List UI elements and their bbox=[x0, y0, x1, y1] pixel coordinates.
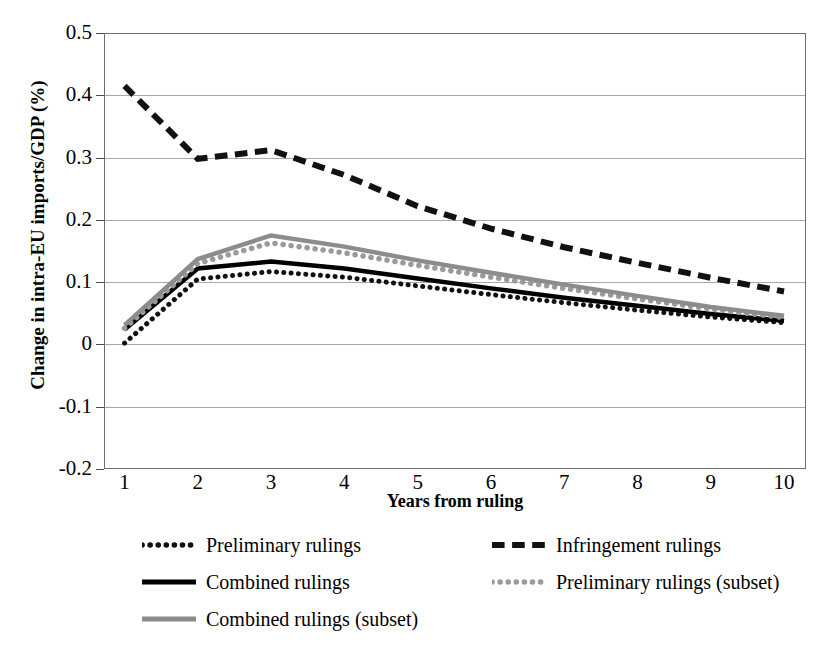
y-axis-tick-label: 0.1 bbox=[20, 271, 92, 292]
legend-key-icon bbox=[492, 537, 546, 553]
y-axis-tick-mark bbox=[96, 407, 104, 408]
chart-legend: Preliminary rulingsInfringement rulingsC… bbox=[128, 528, 828, 640]
y-axis-tick-mark bbox=[96, 158, 104, 159]
y-axis-tick-mark bbox=[96, 344, 104, 345]
legend-key-icon bbox=[142, 537, 196, 553]
legend-item[interactable]: Preliminary rulings (subset) bbox=[492, 565, 832, 599]
y-axis-tick-label: -0.1 bbox=[20, 396, 92, 417]
y-axis-tick-mark bbox=[96, 220, 104, 221]
y-axis-tick-mark bbox=[96, 469, 104, 470]
y-axis-tick-label: 0.5 bbox=[20, 22, 92, 43]
y-axis-tick-mark bbox=[96, 95, 104, 96]
legend-label: Combined rulings (subset) bbox=[206, 608, 418, 630]
legend-label: Preliminary rulings bbox=[206, 534, 361, 556]
y-axis-tick-label: 0.3 bbox=[20, 147, 92, 168]
y-axis-tick-label: 0.2 bbox=[20, 209, 92, 230]
legend-item[interactable]: Infringement rulings bbox=[492, 528, 832, 562]
y-axis-tick-label: 0 bbox=[20, 333, 92, 354]
chart-figure: Change in intra-EU imports/GDP (%) 0.50.… bbox=[0, 0, 836, 650]
legend-key-icon bbox=[492, 574, 546, 590]
x-axis-title: Years from ruling bbox=[100, 489, 810, 513]
legend-item[interactable]: Preliminary rulings bbox=[142, 528, 472, 562]
legend-label: Infringement rulings bbox=[556, 534, 721, 556]
legend-label: Combined rulings bbox=[206, 571, 350, 593]
y-axis-tick-mark bbox=[96, 282, 104, 283]
legend-item[interactable]: Combined rulings bbox=[142, 565, 472, 599]
legend-key-icon bbox=[142, 611, 196, 627]
y-axis-tick-mark bbox=[96, 33, 104, 34]
y-axis-tick-label: 0.4 bbox=[20, 84, 92, 105]
plot-border bbox=[104, 33, 806, 469]
y-axis-tick-label: -0.2 bbox=[20, 458, 92, 479]
legend-label: Preliminary rulings (subset) bbox=[556, 571, 779, 593]
plot-area bbox=[104, 33, 806, 469]
legend-item[interactable]: Combined rulings (subset) bbox=[142, 602, 472, 636]
legend-key-icon bbox=[142, 574, 196, 590]
